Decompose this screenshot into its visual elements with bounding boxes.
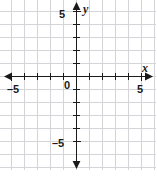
y-axis-name-label: y xyxy=(83,3,88,15)
x-axis-name-label: x xyxy=(142,62,148,74)
x-axis xyxy=(4,73,153,81)
x-axis-tick-label-5: 5 xyxy=(137,84,143,95)
y-axis-tick-label-5: 5 xyxy=(59,9,65,20)
y-axis-arrow-up xyxy=(73,2,81,10)
y-axis xyxy=(73,2,81,169)
y-axis-tick-label-negative-5: –5 xyxy=(52,138,64,149)
grid-lines xyxy=(0,0,156,170)
coordinate-grid xyxy=(0,0,157,185)
x-axis-tick-label-negative-5: –5 xyxy=(7,84,19,95)
origin-label: 0 xyxy=(64,80,70,91)
coordinate-plane-figure: 5 –5 0 –5 5 x y xyxy=(0,0,157,185)
